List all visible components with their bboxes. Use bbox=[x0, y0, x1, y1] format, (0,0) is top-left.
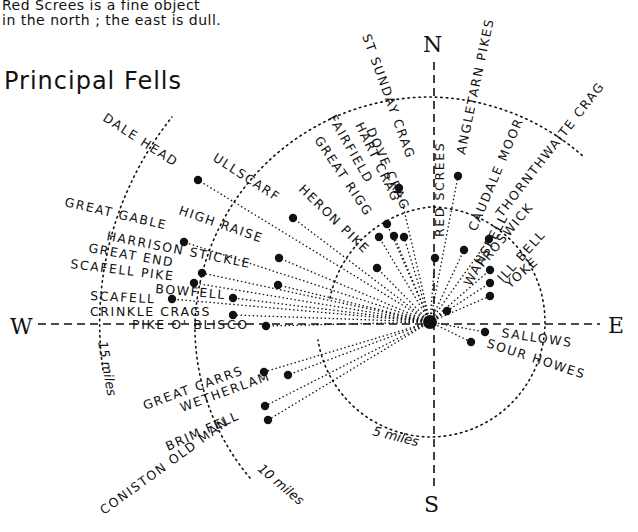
label-5-miles: 5 miles bbox=[371, 423, 421, 449]
label-high-raise: HIGH RAISE bbox=[177, 203, 265, 246]
label-coniston-old-man: CONISTON OLD MAN bbox=[97, 414, 231, 517]
fell-dot-coniston-old-man bbox=[264, 416, 272, 424]
ray-crinkle-crags bbox=[233, 315, 430, 322]
label-dale-head: DALE HEAD bbox=[100, 110, 181, 170]
fell-dot-hart-crag bbox=[390, 232, 398, 240]
label-pike-o-blisco: PIKE O' BLISCO bbox=[132, 317, 249, 332]
ray-yoke bbox=[430, 296, 490, 322]
diagram-title: Principal Fells bbox=[4, 67, 182, 95]
fell-dot-ill-bell bbox=[486, 279, 494, 287]
label-angletarn-pikes: ANGLETARN PIKES bbox=[453, 17, 497, 156]
ray-great-rigg bbox=[379, 237, 430, 322]
east-label: E bbox=[608, 313, 624, 338]
label-15-miles: 15 miles bbox=[95, 340, 119, 397]
label-great-gable: GREAT GABLE bbox=[63, 194, 168, 232]
label-red-screes: RED SCREES bbox=[432, 142, 447, 237]
fell-dot-heron-pike bbox=[373, 264, 381, 272]
fell-dot-wetherlam bbox=[284, 371, 292, 379]
label-ullscarf: ULLSCARF bbox=[210, 150, 283, 205]
label-10-miles: 10 miles bbox=[255, 461, 307, 508]
north-label: N bbox=[423, 32, 442, 57]
fell-dot-dove-crag bbox=[400, 233, 408, 241]
ray-wetherlam bbox=[288, 322, 430, 375]
fell-dot-harrison-stickle bbox=[274, 281, 282, 289]
caption-line-2: in the north ; the east is dull. bbox=[2, 12, 221, 28]
fell-dot-dale-head bbox=[194, 176, 202, 184]
ray-bowfell bbox=[233, 298, 430, 322]
fell-dot-fairfield bbox=[383, 220, 391, 228]
ray-dove-crag bbox=[404, 237, 430, 322]
fell-dot-angletarn-pikes bbox=[454, 172, 462, 180]
fell-dot-sour-howes bbox=[467, 338, 475, 346]
ray-coniston-old-man bbox=[268, 322, 430, 420]
fell-dot-red-screes bbox=[431, 254, 439, 262]
fell-dot-sallows bbox=[481, 328, 489, 336]
ray-harrison-stickle bbox=[278, 285, 430, 322]
fell-dot-brim-fell bbox=[261, 402, 269, 410]
fell-dot-pike-o-blisco bbox=[262, 322, 270, 330]
fell-dot-bowfell bbox=[229, 294, 237, 302]
viewpoint-hub bbox=[423, 315, 437, 329]
label-bowfell: BOWFELL bbox=[155, 281, 227, 302]
ray-brim-fell bbox=[265, 322, 430, 406]
fell-dot-ullscarf bbox=[289, 214, 297, 222]
fell-dot-yoke bbox=[486, 292, 494, 300]
principal-fells-diagram: Red Screes is a fine object in the north… bbox=[0, 0, 638, 532]
fell-dot-caudale-moor bbox=[460, 246, 468, 254]
fell-dot-wansfell bbox=[443, 307, 451, 315]
fell-dot-great-rigg bbox=[375, 233, 383, 241]
south-label: S bbox=[424, 492, 439, 517]
fell-dot-high-raise bbox=[275, 254, 283, 262]
fell-dot-great-end bbox=[198, 269, 206, 277]
west-label: W bbox=[10, 314, 33, 339]
